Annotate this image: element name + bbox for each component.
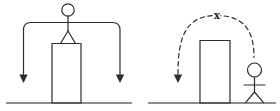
box-rect [52, 44, 81, 104]
arrowhead-down-icon [174, 75, 182, 84]
left-diagram [6, 4, 132, 103]
figure-leg-left [61, 31, 69, 44]
figure-head [62, 4, 74, 16]
figure-leg-left [246, 92, 255, 103]
jump-trajectory-arc [174, 16, 254, 84]
arrowhead-down-icon [116, 75, 124, 84]
box-rect [200, 41, 230, 104]
figure-head [248, 63, 262, 77]
arrow-curve [79, 23, 120, 76]
box-left [52, 44, 81, 104]
diagram-svg: x [0, 0, 280, 111]
figure-canvas: x [0, 0, 280, 111]
right-diagram: x [148, 9, 276, 103]
arrowhead-down-icon [19, 75, 27, 84]
dashed-arc [178, 16, 254, 75]
x-mark-label: x [214, 9, 221, 21]
box-right [200, 41, 230, 104]
downward-arrow-left [19, 23, 57, 84]
figure-leg-right [255, 92, 264, 103]
figure-leg-right [68, 31, 76, 44]
downward-arrow-right [79, 23, 124, 84]
stick-figure-on-box [57, 4, 79, 44]
blocked-x-mark: x [214, 9, 221, 21]
stick-figure-beside-box [244, 63, 265, 103]
